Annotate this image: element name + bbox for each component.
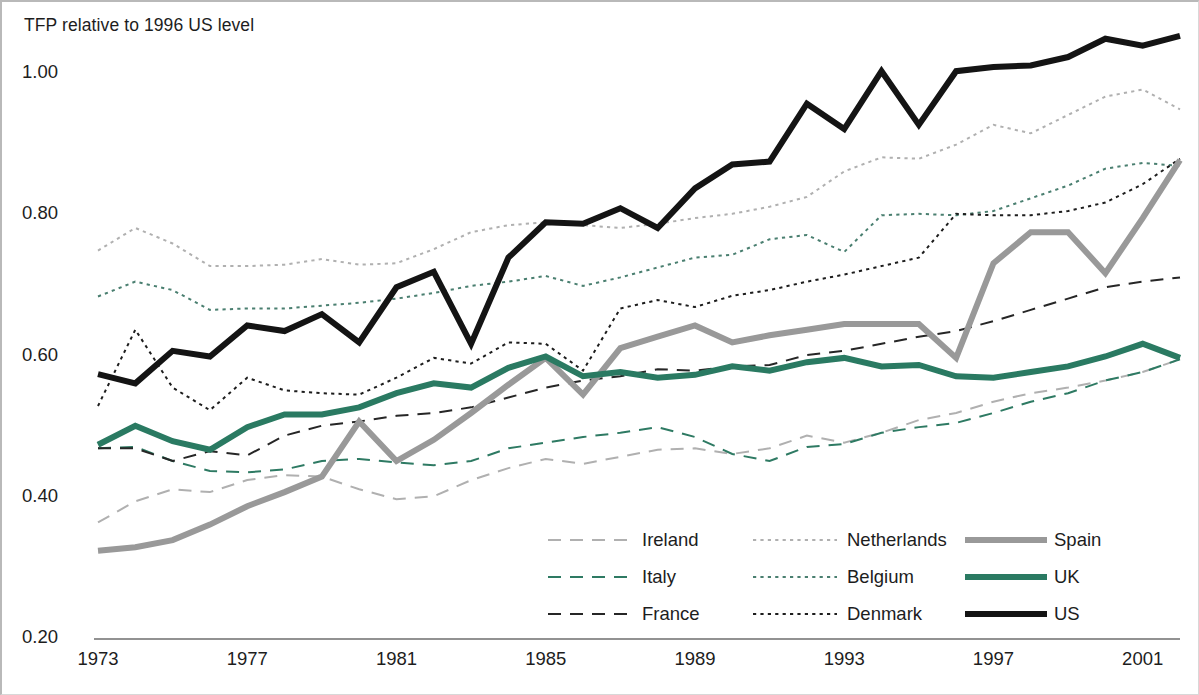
series-line-italy bbox=[98, 359, 1180, 472]
x-axis-tick-1989: 1989 bbox=[674, 648, 715, 670]
legend-item-belgium[interactable]: Belgium bbox=[752, 566, 964, 588]
legend-label-italy: Italy bbox=[642, 566, 676, 588]
series-line-ireland bbox=[98, 359, 1180, 522]
x-axis-tick-1985: 1985 bbox=[525, 648, 566, 670]
legend-swatch-us-icon bbox=[964, 606, 1048, 622]
y-axis-tick-1-00: 1.00 bbox=[22, 61, 58, 83]
chart-title: TFP relative to 1996 US level bbox=[24, 15, 254, 36]
legend-item-uk[interactable]: UK bbox=[964, 566, 1172, 588]
legend-swatch-france-icon bbox=[547, 606, 633, 622]
series-line-france bbox=[98, 277, 1180, 461]
legend-swatch-italy-icon bbox=[547, 569, 633, 585]
y-axis-tick-0-40: 0.40 bbox=[22, 485, 58, 507]
x-axis-tick-1977: 1977 bbox=[227, 648, 268, 670]
series-line-us bbox=[98, 36, 1180, 383]
legend-item-ireland[interactable]: Ireland bbox=[547, 529, 752, 551]
x-axis-tick-1993: 1993 bbox=[824, 648, 865, 670]
y-axis-tick-0-80: 0.80 bbox=[22, 202, 58, 224]
y-axis-tick-0-60: 0.60 bbox=[22, 344, 58, 366]
x-axis-tick-1973: 1973 bbox=[77, 648, 118, 670]
series-line-netherlands bbox=[98, 90, 1180, 267]
y-axis-tick-0-20: 0.20 bbox=[22, 626, 58, 648]
legend-swatch-ireland-icon bbox=[547, 532, 633, 548]
legend-label-denmark: Denmark bbox=[847, 603, 922, 625]
legend-label-belgium: Belgium bbox=[847, 566, 914, 588]
series-line-uk bbox=[98, 344, 1180, 450]
legend-swatch-spain-icon bbox=[964, 532, 1048, 548]
legend-label-ireland: Ireland bbox=[642, 529, 699, 551]
series-line-spain bbox=[98, 160, 1180, 551]
legend-label-spain: Spain bbox=[1054, 529, 1101, 551]
series-line-denmark bbox=[98, 159, 1180, 410]
legend-swatch-netherlands-icon bbox=[752, 532, 838, 548]
legend-swatch-uk-icon bbox=[964, 569, 1048, 585]
x-axis-tick-1981: 1981 bbox=[376, 648, 417, 670]
legend-label-france: France bbox=[642, 603, 700, 625]
legend-item-us[interactable]: US bbox=[964, 603, 1172, 625]
legend-swatch-belgium-icon bbox=[752, 569, 838, 585]
chart-frame: TFP relative to 1996 US level 0.200.400.… bbox=[0, 0, 1199, 695]
legend-item-netherlands[interactable]: Netherlands bbox=[752, 529, 964, 551]
legend-swatch-denmark-icon bbox=[752, 606, 838, 622]
x-axis-tick-2001: 2001 bbox=[1122, 648, 1163, 670]
legend-item-denmark[interactable]: Denmark bbox=[752, 603, 964, 625]
legend-label-netherlands: Netherlands bbox=[847, 529, 947, 551]
legend-label-uk: UK bbox=[1054, 566, 1080, 588]
x-axis-tick-1997: 1997 bbox=[973, 648, 1014, 670]
series-line-belgium bbox=[98, 163, 1180, 310]
legend-item-france[interactable]: France bbox=[547, 603, 752, 625]
legend-item-italy[interactable]: Italy bbox=[547, 566, 752, 588]
chart-legend: IrelandNetherlandsSpainItalyBelgiumUKFra… bbox=[547, 521, 1172, 632]
legend-label-us: US bbox=[1054, 603, 1080, 625]
legend-item-spain[interactable]: Spain bbox=[964, 529, 1172, 551]
